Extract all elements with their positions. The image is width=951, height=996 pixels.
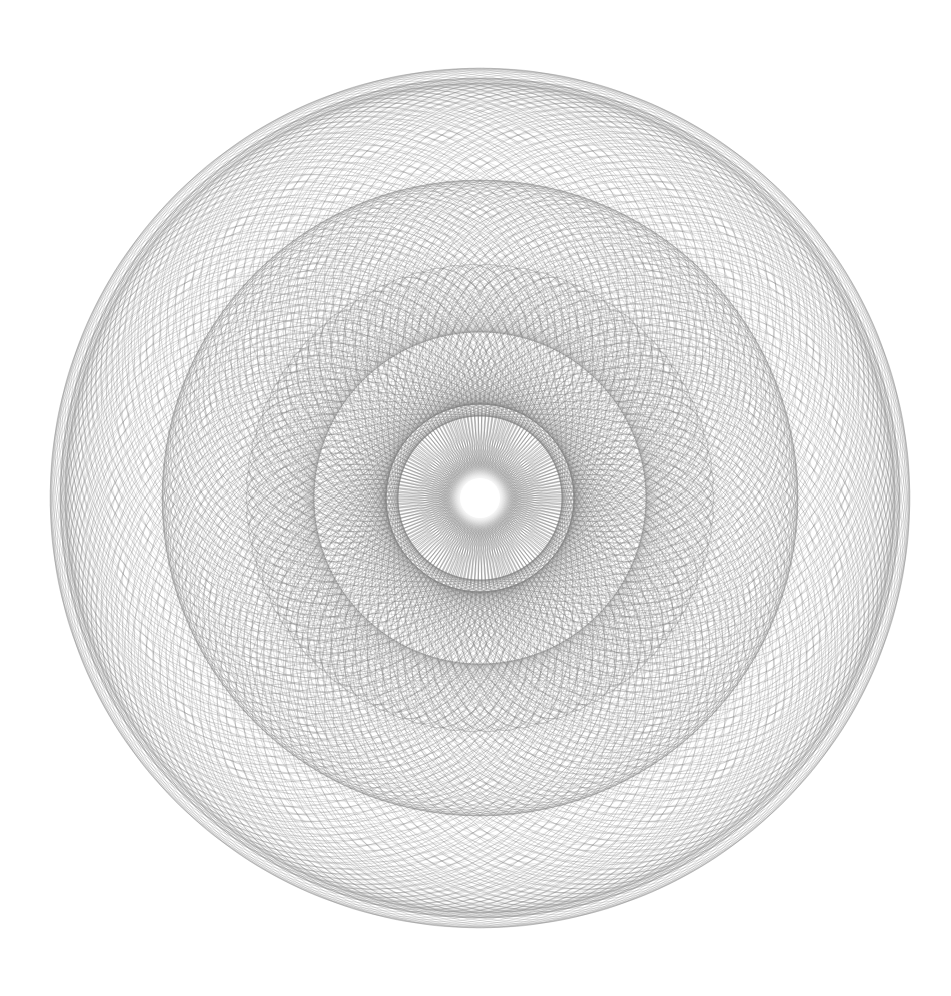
artwork-canvas: Spirograph Line Drawing A circular manda… xyxy=(0,0,951,996)
spirograph-figure xyxy=(0,0,951,996)
